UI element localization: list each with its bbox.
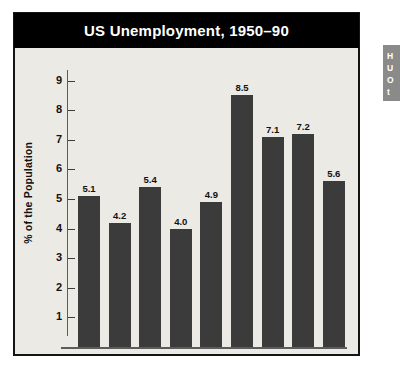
y-tick-label: 1 bbox=[56, 310, 62, 323]
y-tick-mark bbox=[68, 229, 75, 230]
y-tick-label: 5 bbox=[56, 192, 62, 205]
y-tick-label: 4 bbox=[56, 222, 62, 235]
bar-value-label: 4.9 bbox=[191, 189, 231, 200]
side-note-line: U bbox=[387, 63, 393, 74]
bar bbox=[78, 196, 100, 347]
bar-value-label: 5.6 bbox=[314, 168, 354, 179]
y-tick-mark bbox=[68, 199, 75, 200]
y-tick-label: 8 bbox=[56, 103, 62, 116]
bar-value-label: 7.2 bbox=[283, 121, 323, 132]
y-tick: 1 bbox=[68, 317, 75, 318]
bar-value-label: 5.1 bbox=[69, 183, 109, 194]
plot-area: % of the Population 123456789 5.14.25.44… bbox=[16, 50, 357, 354]
y-tick-mark bbox=[68, 288, 75, 289]
y-tick-mark bbox=[68, 258, 75, 259]
side-note-line: O bbox=[387, 75, 394, 86]
y-tick-label: 6 bbox=[56, 162, 62, 175]
bar bbox=[109, 223, 131, 347]
y-tick-label: 2 bbox=[56, 281, 62, 294]
y-tick: 5 bbox=[68, 199, 75, 200]
y-tick: 3 bbox=[68, 258, 75, 259]
bar-value-label: 8.5 bbox=[222, 82, 262, 93]
y-tick: 2 bbox=[68, 288, 75, 289]
bar bbox=[323, 181, 345, 347]
y-tick-mark bbox=[68, 140, 75, 141]
y-tick-label: 9 bbox=[56, 74, 62, 87]
bar bbox=[231, 95, 253, 347]
y-tick-mark bbox=[68, 110, 75, 111]
x-axis-line bbox=[61, 347, 347, 349]
bar bbox=[170, 229, 192, 347]
y-tick-mark bbox=[68, 169, 75, 170]
bar bbox=[292, 134, 314, 347]
side-note-panel: HUOt bbox=[383, 45, 400, 101]
bar-value-label: 5.4 bbox=[130, 174, 170, 185]
chart-figure: US Unemployment, 1950–90 % of the Popula… bbox=[0, 0, 400, 390]
side-note-line: t bbox=[387, 87, 390, 98]
y-axis-label: % of the Population bbox=[22, 142, 36, 244]
chart-title-banner: US Unemployment, 1950–90 bbox=[14, 13, 359, 48]
bar bbox=[200, 202, 222, 347]
y-tick-label: 7 bbox=[56, 133, 62, 146]
y-tick-label: 3 bbox=[56, 251, 62, 264]
page-title: US Unemployment, 1950–90 bbox=[84, 22, 289, 39]
y-tick-mark bbox=[68, 317, 75, 318]
bar bbox=[139, 187, 161, 347]
y-tick-mark bbox=[68, 81, 75, 82]
y-tick: 8 bbox=[68, 110, 75, 111]
bar bbox=[262, 137, 284, 347]
bar-value-label: 4.0 bbox=[161, 216, 201, 227]
y-tick: 4 bbox=[68, 229, 75, 230]
y-tick: 6 bbox=[68, 169, 75, 170]
bar-value-label: 4.2 bbox=[100, 210, 140, 221]
side-note-line: H bbox=[387, 51, 393, 62]
y-tick: 7 bbox=[68, 140, 75, 141]
y-tick: 9 bbox=[68, 81, 75, 82]
